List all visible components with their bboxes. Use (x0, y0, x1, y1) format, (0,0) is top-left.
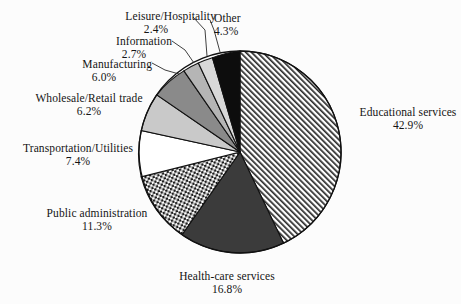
label-transportation-utilities: Transportation/Utilities 7.4% (8, 142, 148, 168)
label-other: Other 4.3% (214, 12, 274, 38)
label-educational-services-pct: 42.9% (352, 119, 461, 132)
leader-line-information (172, 41, 194, 63)
label-leisure-hospitality: Leisure/Hospitality 2.4% (96, 10, 216, 36)
label-educational-services: Educational services 42.9% (352, 106, 461, 132)
label-wholesale-retail-trade: Wholesale/Retail trade 6.2% (26, 92, 152, 118)
label-manufacturing-pct: 6.0% (56, 71, 152, 84)
label-information-name: Information (96, 35, 172, 48)
label-manufacturing: Manufacturing 6.0% (56, 58, 152, 84)
label-other-pct: 4.3% (214, 25, 274, 38)
label-educational-services-name: Educational services (352, 106, 461, 119)
label-public-administration: Public administration 11.3% (34, 207, 160, 233)
label-health-care-services-name: Health-care services (164, 270, 290, 283)
label-health-care-services: Health-care services 16.8% (164, 270, 290, 296)
label-public-administration-pct: 11.3% (34, 220, 160, 233)
label-leisure-hospitality-name: Leisure/Hospitality (96, 10, 216, 23)
label-other-name: Other (214, 12, 274, 25)
label-public-administration-name: Public administration (34, 207, 160, 220)
leader-line-manufacturing (152, 63, 179, 74)
label-wholesale-retail-trade-name: Wholesale/Retail trade (26, 92, 152, 105)
label-manufacturing-name: Manufacturing (56, 58, 152, 71)
label-transportation-utilities-name: Transportation/Utilities (8, 142, 148, 155)
label-health-care-services-pct: 16.8% (164, 283, 290, 296)
pie-slices (139, 51, 342, 253)
label-wholesale-retail-trade-pct: 6.2% (26, 105, 152, 118)
pie-chart-figure: Leisure/Hospitality 2.4% Information 2.7… (0, 0, 461, 304)
label-transportation-utilities-pct: 7.4% (8, 155, 148, 168)
